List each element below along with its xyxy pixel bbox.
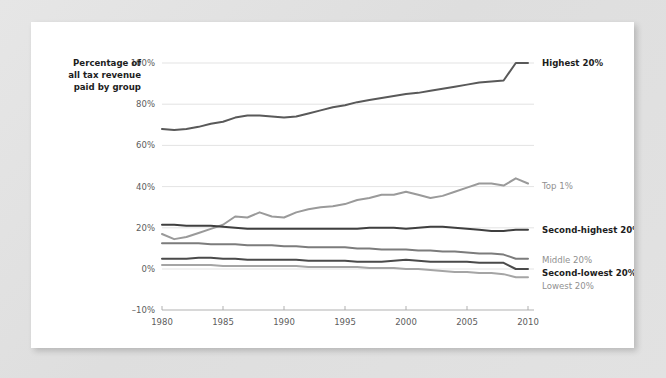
series-label-highest20: Highest 20%: [542, 58, 603, 68]
data-series-group: [162, 63, 528, 277]
x-axis-tick-label: 1980: [151, 317, 173, 327]
series-label-middle20: Middle 20%: [542, 255, 592, 265]
y-axis-tick-label: 60%: [136, 140, 155, 150]
chart-card: –10%0%20%40%60%80%100% 19801985199019952…: [31, 22, 634, 348]
series-label-secondhighest20: Second-highest 20%: [542, 225, 634, 235]
y-axis-title-line-3: paid by group: [74, 82, 141, 92]
series-line: [162, 63, 528, 130]
series-labels-group: Highest 20%Top 1%Second-highest 20%Middl…: [541, 58, 634, 291]
y-axis-title-line-2: all tax revenue: [68, 70, 141, 80]
gridlines-group: [162, 63, 534, 269]
chart-plot-area: –10%0%20%40%60%80%100% 19801985199019952…: [31, 22, 634, 348]
series-line: [162, 265, 528, 277]
x-axis-tick-label: 2010: [517, 317, 539, 327]
series-label-secondlowest20: Second-lowest 20%: [542, 268, 634, 278]
x-axis-tick-label: 2005: [456, 317, 478, 327]
y-axis-tick-labels: –10%0%20%40%60%80%100%: [131, 58, 155, 315]
y-axis-tick-label: 80%: [136, 99, 155, 109]
x-axis-tick-labels: 1980198519901995200020052010: [151, 317, 539, 327]
series-label-top1: Top 1%: [541, 181, 573, 191]
x-axis-tick-label: 1995: [334, 317, 356, 327]
x-axis-tick-label: 1985: [212, 317, 234, 327]
series-line: [162, 243, 528, 258]
y-axis-title-line-1: Percentage of: [73, 58, 141, 68]
line-chart: –10%0%20%40%60%80%100% 19801985199019952…: [31, 22, 634, 348]
y-axis-tick-label: 0%: [142, 264, 156, 274]
x-axis-tick-label: 2000: [395, 317, 417, 327]
x-axis-tick-label: 1990: [273, 317, 295, 327]
series-label-lowest20: Lowest 20%: [542, 281, 594, 291]
y-axis-tick-label: 40%: [136, 182, 155, 192]
y-axis-tick-label: 20%: [136, 223, 155, 233]
axis-group: [162, 306, 534, 310]
y-axis-tick-label: –10%: [132, 305, 155, 315]
